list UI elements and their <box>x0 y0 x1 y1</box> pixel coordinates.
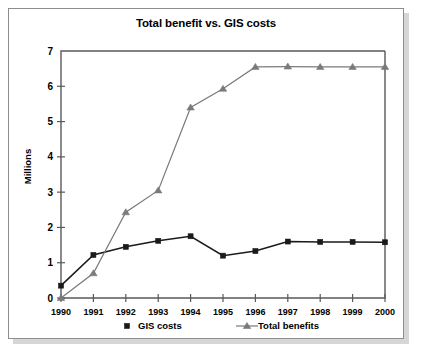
data-point-marker <box>91 252 96 257</box>
y-tick-label: 1 <box>47 257 53 268</box>
data-series-group <box>57 63 388 300</box>
x-tick-label: 2000 <box>375 307 395 317</box>
data-point-marker <box>350 239 355 244</box>
legend-label: Total benefits <box>258 320 319 331</box>
x-tick-label: 1990 <box>51 307 71 317</box>
y-axis-ticks: 01234567 <box>47 46 65 304</box>
chart-area: Total benefit vs. GIS costs Millions 012… <box>9 9 403 338</box>
data-point-marker <box>90 270 97 276</box>
x-tick-label: 1993 <box>148 307 168 317</box>
chart-page: Total benefit vs. GIS costs Millions 012… <box>0 0 424 361</box>
data-point-marker <box>285 239 290 244</box>
chart-frame: Total benefit vs. GIS costs Millions 012… <box>8 8 404 339</box>
data-point-marker <box>122 209 129 215</box>
data-point-marker <box>219 85 226 91</box>
data-point-marker <box>154 187 161 193</box>
y-tick-label: 3 <box>47 187 53 198</box>
series-total-benefits <box>57 63 388 300</box>
y-tick-label: 0 <box>47 293 53 304</box>
x-tick-label: 1997 <box>278 307 298 317</box>
y-tick-label: 4 <box>47 151 53 162</box>
data-point-marker <box>123 244 128 249</box>
data-point-marker <box>187 104 194 110</box>
legend-item-total-benefits[interactable]: Total benefits <box>236 320 319 331</box>
x-tick-label: 1998 <box>310 307 330 317</box>
y-tick-label: 6 <box>47 81 53 92</box>
chart-legend: GIS costsTotal benefits <box>125 320 320 331</box>
x-tick-label: 1996 <box>245 307 265 317</box>
data-point-marker <box>383 240 388 245</box>
y-tick-label: 7 <box>47 46 53 57</box>
x-tick-label: 1991 <box>83 307 103 317</box>
legend-item-gis-costs[interactable]: GIS costs <box>125 320 182 331</box>
y-tick-label: 5 <box>47 116 53 127</box>
data-point-marker <box>188 234 193 239</box>
data-point-marker <box>253 249 258 254</box>
data-point-marker <box>125 324 130 329</box>
y-tick-label: 2 <box>47 222 53 233</box>
series-gis-costs <box>59 234 388 288</box>
data-point-marker <box>59 283 64 288</box>
data-point-marker <box>318 239 323 244</box>
data-point-marker <box>156 238 161 243</box>
data-point-marker <box>221 253 226 258</box>
x-tick-label: 1992 <box>116 307 136 317</box>
x-tick-label: 1994 <box>181 307 201 317</box>
plot-svg: 01234567 1990199119921993199419951996199… <box>9 9 403 338</box>
legend-label: GIS costs <box>138 320 182 331</box>
x-tick-label: 1995 <box>213 307 233 317</box>
x-tick-label: 1999 <box>343 307 363 317</box>
